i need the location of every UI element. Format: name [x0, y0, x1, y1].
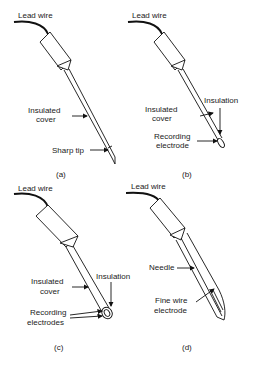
panel-b-recording-electrode-label-line1: Recording	[154, 132, 190, 141]
panel-a-sharp-tip-label: Sharp tip	[52, 146, 84, 155]
panel-c-caption: (c)	[54, 343, 63, 352]
panel-b-lead-wire-label: Lead wire	[132, 11, 167, 20]
panel-a-insulated-cover-label-line1: Insulated	[28, 106, 60, 115]
panel-d-caption: (d)	[182, 343, 192, 352]
panel-b-insulated-cover-label-line2: cover	[152, 114, 172, 123]
panel-d-fine-wire-electrode-label-line1: Fine wire	[155, 296, 187, 305]
panel-c-drawing	[14, 194, 114, 321]
panel-c-insulated-cover-label-line2: cover	[40, 287, 60, 296]
panel-c-lead-wire-label: Lead wire	[18, 184, 53, 193]
panel-a-drawing	[14, 22, 115, 165]
panel-c-insulated-cover-label-line1: Insulated	[31, 277, 63, 286]
panel-b-drawing	[128, 22, 226, 149]
panel-a-insulated-cover-label-line2: cover	[36, 115, 56, 124]
panel-d-lead-wire-label: Lead wire	[131, 182, 166, 191]
panel-c-recording-electrodes-label-line2: electrodes	[27, 318, 64, 327]
panel-c-recording-electrodes-label-line1: Recording	[30, 308, 66, 317]
panel-a-caption: (a)	[56, 170, 66, 179]
panel-b-insulated-cover-label-line1: Insulated	[145, 105, 177, 114]
panel-b-recording-electrode-label-line2: electrode	[156, 141, 189, 150]
panel-c-insulation-label: Insulation	[96, 272, 130, 281]
panel-d-fine-wire-electrode-label-line2: electrode	[154, 306, 187, 315]
panel-b-insulation-label: Insulation	[204, 96, 238, 105]
panel-d-needle-label: Needle	[149, 263, 174, 272]
panel-b-caption: (b)	[182, 170, 192, 179]
panel-a-lead-wire-label: Lead wire	[18, 11, 53, 20]
